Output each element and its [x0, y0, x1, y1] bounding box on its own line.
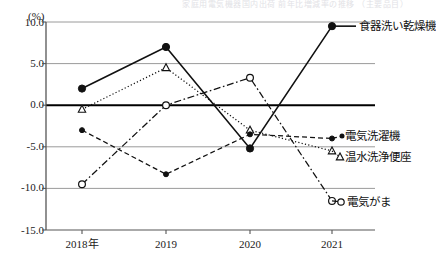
- data-point-marker: [162, 43, 169, 50]
- data-point-marker: [247, 74, 254, 81]
- data-point-marker: [78, 105, 85, 112]
- data-point-marker: [248, 132, 253, 137]
- data-point-marker: [328, 147, 335, 154]
- series-line-1: [82, 68, 332, 151]
- series-leader-marker: [338, 199, 344, 205]
- series-line-0: [82, 26, 332, 148]
- data-point-marker: [246, 145, 253, 152]
- data-point-marker: [162, 64, 169, 71]
- series-leader-marker: [336, 153, 343, 160]
- data-point-marker: [80, 128, 85, 133]
- data-point-marker: [164, 172, 169, 177]
- series-leader-marker: [340, 134, 345, 139]
- data-point-marker: [78, 85, 85, 92]
- data-point-marker: [79, 181, 86, 188]
- series-line-2: [82, 130, 332, 174]
- data-point-marker: [163, 102, 170, 109]
